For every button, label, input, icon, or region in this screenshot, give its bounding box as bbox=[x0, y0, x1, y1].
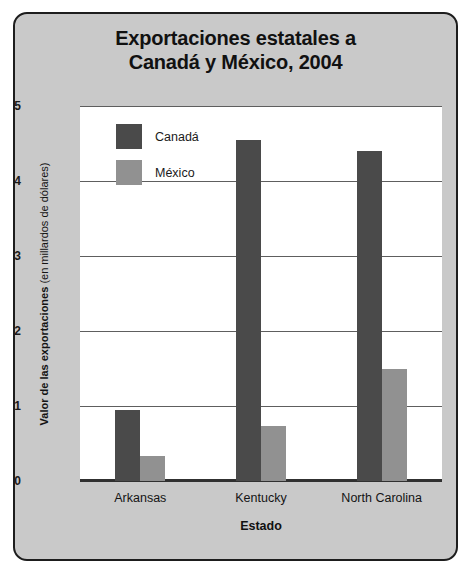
bar-canadá-arkansas bbox=[115, 410, 140, 481]
bar-canadá-kentucky bbox=[236, 140, 261, 481]
y-axis-title-units: (en millardos de dólares) bbox=[38, 162, 50, 283]
legend-label-canadá: Canadá bbox=[155, 130, 199, 144]
x-tick-label-kentucky: Kentucky bbox=[201, 491, 322, 505]
y-tick-label-4: 4 bbox=[0, 174, 21, 188]
x-tick-label-north-carolina: North Carolina bbox=[321, 491, 442, 505]
x-axis-title: Estado bbox=[80, 519, 442, 533]
y-tick-label-0: 0 bbox=[0, 474, 21, 488]
plot-area: CanadáMéxico bbox=[80, 106, 442, 481]
y-tick-label-5: 5 bbox=[0, 99, 21, 113]
legend-swatch-canadá bbox=[116, 124, 142, 149]
y-tick-label-2: 2 bbox=[0, 324, 21, 338]
legend-item-canadá: Canadá bbox=[116, 124, 199, 149]
chart-title: Exportaciones estatales a Canadá y Méxic… bbox=[15, 26, 456, 75]
legend-item-méxico: México bbox=[116, 160, 199, 185]
y-tick-label-3: 3 bbox=[0, 249, 21, 263]
chart-title-line-1: Exportaciones estatales a bbox=[15, 26, 456, 50]
x-tick-label-arkansas: Arkansas bbox=[80, 491, 201, 505]
chart-figure-panel: Exportaciones estatales a Canadá y Méxic… bbox=[13, 12, 458, 561]
bar-méxico-arkansas bbox=[140, 456, 165, 481]
legend-label-méxico: México bbox=[155, 166, 195, 180]
bar-group bbox=[321, 106, 442, 481]
chart-legend: CanadáMéxico bbox=[116, 124, 199, 196]
bar-canadá-north-carolina bbox=[357, 151, 382, 481]
chart-title-line-2: Canadá y México, 2004 bbox=[15, 50, 456, 74]
bar-group bbox=[201, 106, 322, 481]
bar-méxico-kentucky bbox=[261, 426, 286, 481]
y-tick-label-1: 1 bbox=[0, 399, 21, 413]
y-axis-title: Valor de las exportaciones (en millardos… bbox=[35, 106, 53, 481]
bar-méxico-north-carolina bbox=[382, 369, 407, 482]
y-axis-title-bold: Valor de las exportaciones bbox=[38, 286, 50, 425]
legend-swatch-méxico bbox=[116, 160, 142, 185]
